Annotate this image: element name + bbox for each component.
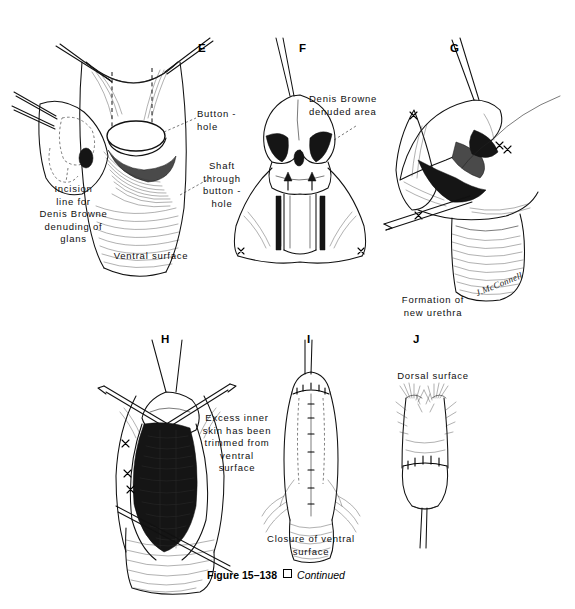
panel-j-drawing bbox=[396, 383, 456, 548]
annotation-incision-line: Incision line for Denis Browne denuding … bbox=[17, 183, 130, 246]
annotation-denis-browne-denuded-area: Denis Browne denuded area bbox=[309, 93, 405, 118]
panel-letter-j: J bbox=[413, 333, 420, 345]
figure-caption: Figure 15–138Continued bbox=[207, 569, 345, 581]
panel-letter-g: G bbox=[450, 42, 459, 54]
figure-number: Figure 15–138 bbox=[207, 569, 277, 581]
annotation-button-hole: Button - hole bbox=[197, 108, 257, 133]
annotation-shaft-through-button-hole: Shaft through button - hole bbox=[188, 160, 256, 210]
figure-plate: E F G H I J Button - hole Shaft through … bbox=[0, 0, 575, 609]
panel-g-drawing bbox=[384, 38, 560, 301]
panel-letter-h: H bbox=[161, 333, 170, 345]
figure-continued-label: Continued bbox=[297, 569, 345, 581]
annotation-closure-of-ventral-surface: Closure of ventral surface bbox=[250, 533, 372, 558]
panel-letter-e: E bbox=[198, 42, 206, 54]
surgical-illustration-artwork bbox=[0, 0, 575, 609]
panel-letter-i: I bbox=[307, 333, 311, 345]
annotation-excess-inner-skin: Excess inner skin has been trimmed from … bbox=[186, 412, 288, 475]
panel-f-drawing bbox=[234, 38, 365, 263]
annotation-formation-of-new-urethra: Formation of new urethra bbox=[378, 294, 488, 319]
caption-square-symbol bbox=[283, 569, 292, 578]
artist-signature: J.McConnell bbox=[474, 270, 524, 298]
annotation-dorsal-surface: Dorsal surface bbox=[378, 370, 488, 383]
panel-letter-f: F bbox=[299, 42, 307, 54]
annotation-ventral-surface: Ventral surface bbox=[86, 250, 216, 263]
